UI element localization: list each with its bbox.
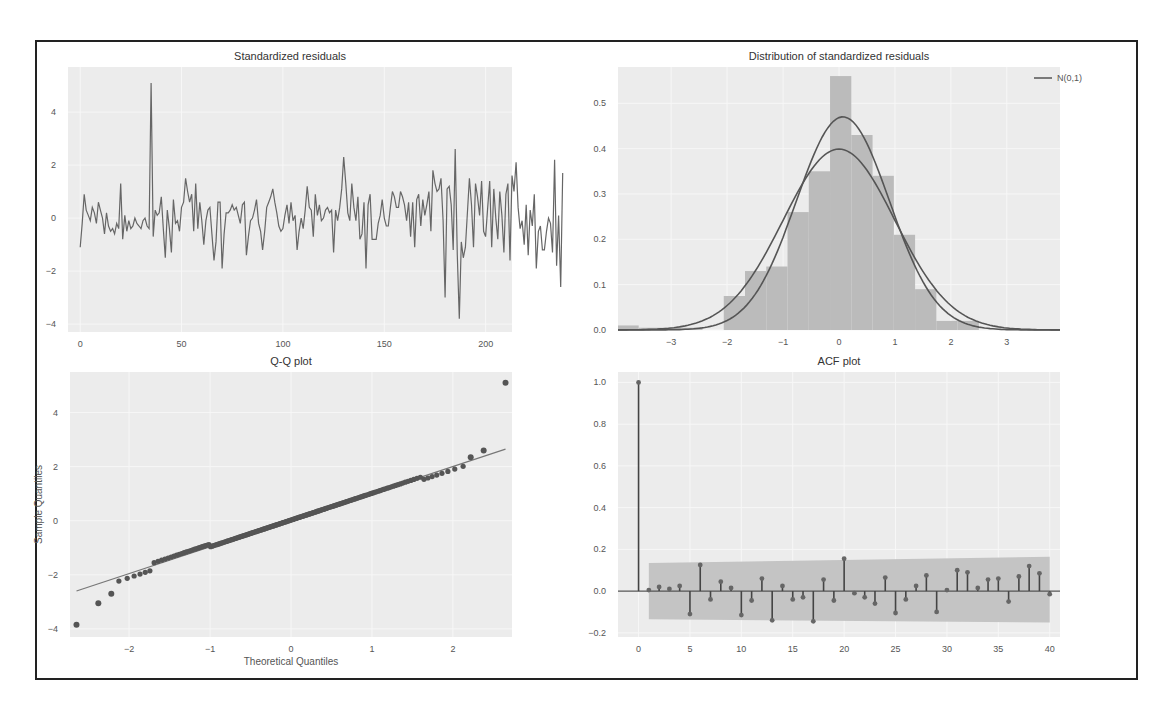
qq-point — [108, 591, 114, 597]
x-tick-label: 0 — [636, 644, 641, 654]
acf-marker — [996, 576, 1001, 581]
histogram-bar — [766, 267, 787, 330]
acf-marker — [852, 591, 857, 596]
histogram-bar — [809, 171, 830, 330]
x-tick-label: 40 — [1045, 644, 1055, 654]
x-tick-label: 200 — [478, 339, 493, 349]
qq-point — [116, 578, 121, 583]
y-tick-label: 4 — [51, 107, 56, 117]
y-tick-label: 0.3 — [593, 189, 606, 199]
histogram-bar — [936, 321, 957, 330]
x-tick-label: 150 — [377, 339, 392, 349]
x-tick-label: 50 — [177, 339, 187, 349]
x-tick-label: 1 — [892, 337, 897, 347]
acf-marker — [821, 577, 826, 582]
x-tick-label: −2 — [124, 644, 134, 654]
acf-marker — [914, 583, 919, 588]
qq-point — [481, 447, 487, 453]
x-tick-label: 0 — [288, 644, 293, 654]
y-tick-label: 0.5 — [593, 98, 606, 108]
legend-label: N(0,1) — [1057, 73, 1082, 83]
x-tick-label: 0 — [836, 337, 841, 347]
x-tick-label: −1 — [205, 644, 215, 654]
acf-marker — [1027, 564, 1032, 569]
acf-marker — [975, 586, 980, 591]
acf-marker — [657, 585, 662, 590]
acf-marker — [667, 587, 672, 592]
qq-y-ticks: −4−2024 — [48, 408, 58, 634]
acf-marker — [770, 618, 775, 623]
histogram-bar — [830, 76, 851, 330]
x-tick-label: 2 — [948, 337, 953, 347]
x-tick-label: 20 — [839, 644, 849, 654]
qq-x-ticks: −2−1012 — [124, 644, 455, 654]
residuals-panel: Standardized residuals 050100150200 −4−2… — [46, 50, 563, 349]
acf-marker — [873, 601, 878, 606]
distribution-x-ticks: −3−2−10123 — [666, 337, 1009, 347]
acf-marker — [780, 583, 785, 588]
y-tick-label: 4 — [53, 408, 58, 418]
x-tick-label: 10 — [736, 644, 746, 654]
y-tick-label: −4 — [46, 319, 56, 329]
acf-marker — [677, 583, 682, 588]
x-tick-label: 35 — [993, 644, 1003, 654]
acf-marker — [646, 588, 651, 593]
y-tick-label: 0.2 — [593, 234, 606, 244]
acf-marker — [903, 597, 908, 602]
acf-marker — [862, 595, 867, 600]
qq-point — [132, 573, 137, 578]
acf-marker — [1047, 592, 1052, 597]
y-tick-label: 2 — [51, 160, 56, 170]
acf-marker — [1016, 574, 1021, 579]
x-tick-label: −3 — [666, 337, 676, 347]
histogram-bar — [894, 235, 915, 330]
x-tick-label: 25 — [891, 644, 901, 654]
acf-marker — [729, 586, 734, 591]
qq-point — [503, 380, 509, 386]
acf-marker — [831, 598, 836, 603]
y-tick-label: 0.6 — [593, 461, 606, 471]
acf-marker — [698, 563, 703, 568]
acf-title: ACF plot — [818, 355, 861, 367]
residuals-x-ticks: 050100150200 — [78, 339, 494, 349]
qq-panel: Q-Q plot Theoretical Quantiles Sample Qu… — [33, 355, 512, 667]
acf-marker — [760, 576, 765, 581]
x-tick-label: 5 — [687, 644, 692, 654]
acf-x-ticks: 0510152025303540 — [636, 644, 1055, 654]
x-tick-label: 15 — [788, 644, 798, 654]
residuals-y-ticks: −4−2024 — [46, 107, 56, 329]
qq-point — [434, 472, 439, 477]
figure: Standardized residuals 050100150200 −4−2… — [0, 0, 1175, 716]
qq-point — [137, 571, 142, 576]
qq-point — [445, 469, 450, 474]
acf-panel: ACF plot 0510152025303540 −0.20.00.20.40… — [588, 355, 1060, 654]
y-tick-label: −4 — [48, 624, 58, 634]
acf-confidence-band — [649, 557, 1050, 623]
qq-point — [461, 464, 466, 469]
y-tick-label: 0.4 — [593, 144, 606, 154]
acf-marker — [739, 613, 744, 618]
acf-marker — [945, 588, 950, 593]
y-tick-label: 0.8 — [593, 419, 606, 429]
acf-marker — [1006, 599, 1011, 604]
y-tick-label: 0 — [51, 213, 56, 223]
y-tick-label: 0 — [53, 516, 58, 526]
x-tick-label: 30 — [942, 644, 952, 654]
histogram-bar — [788, 212, 809, 330]
x-tick-label: 100 — [275, 339, 290, 349]
acf-marker — [986, 577, 991, 582]
y-tick-label: 1.0 — [593, 377, 606, 387]
y-tick-label: −2 — [46, 266, 56, 276]
qq-point — [468, 454, 474, 460]
x-tick-label: 0 — [78, 339, 83, 349]
distribution-title: Distribution of standardized residuals — [749, 50, 930, 62]
residuals-title: Standardized residuals — [234, 50, 346, 62]
y-tick-label: 0.0 — [593, 586, 606, 596]
x-tick-label: 3 — [1004, 337, 1009, 347]
qq-point — [147, 568, 152, 573]
distribution-panel: Distribution of standardized residuals −… — [593, 50, 1082, 347]
acf-marker — [955, 568, 960, 573]
qq-point — [73, 622, 79, 628]
acf-marker — [893, 611, 898, 616]
acf-marker — [934, 610, 939, 615]
